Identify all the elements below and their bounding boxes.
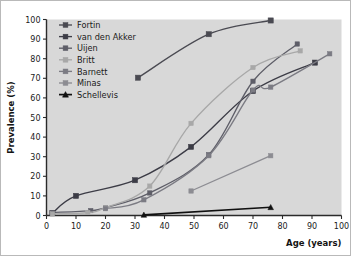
y-tick-label: 0 — [35, 212, 40, 221]
y-tick-label: 100 — [25, 16, 40, 25]
y-tick-label: 30 — [30, 153, 40, 162]
x-tick-label: 80 — [277, 222, 287, 231]
x-tick-label: 30 — [130, 222, 140, 231]
legend-label: Fortin — [77, 20, 100, 30]
y-tick-label: 20 — [30, 172, 40, 181]
x-tick-label: 60 — [218, 222, 228, 231]
x-axis-title: Age (years) — [286, 238, 342, 248]
x-tick-label: 100 — [334, 222, 349, 231]
legend-label: Uijen — [77, 43, 98, 53]
x-tick-label: 90 — [307, 222, 317, 231]
x-tick-label: 10 — [71, 222, 81, 231]
legend-label: Barnett — [77, 67, 108, 77]
x-tick-label: 70 — [248, 222, 258, 231]
y-tick-label: 80 — [30, 55, 40, 64]
x-tick-label: 50 — [189, 222, 199, 231]
y-tick-label: 40 — [30, 133, 40, 142]
prevalence-age-chart: 0102030405060708090100 01020304050607080… — [1, 1, 351, 256]
y-tick-label: 10 — [30, 192, 40, 201]
y-tick-label: 60 — [30, 94, 40, 103]
y-tick-label: 90 — [30, 35, 40, 44]
y-tick-label: 70 — [30, 74, 40, 83]
x-tick-label: 0 — [44, 222, 49, 231]
chart-figure: 0102030405060708090100 01020304050607080… — [0, 0, 351, 256]
y-axis-title: Prevalence (%) — [6, 81, 16, 153]
legend-label: van den Akker — [77, 32, 137, 42]
y-axis-ticks: 0102030405060708090100 — [25, 16, 46, 221]
x-axis-ticks: 0102030405060708090100 — [44, 216, 349, 231]
x-tick-label: 20 — [100, 222, 110, 231]
y-tick-label: 50 — [30, 114, 40, 123]
x-tick-label: 40 — [159, 222, 169, 231]
legend-label: Minas — [77, 78, 101, 88]
legend-label: Schellevis — [77, 90, 118, 100]
legend-label: Britt — [77, 55, 95, 65]
